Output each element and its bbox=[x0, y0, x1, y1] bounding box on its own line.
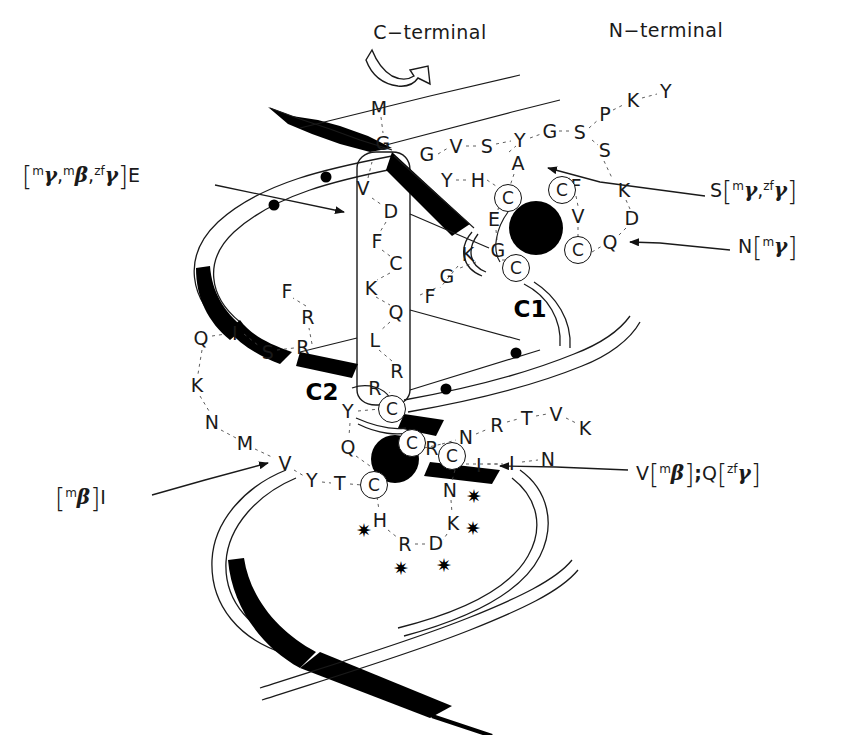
residue-K: K bbox=[365, 279, 378, 298]
residue-D: D bbox=[625, 209, 640, 228]
residue-P: P bbox=[599, 105, 611, 124]
residue-G: G bbox=[376, 134, 391, 153]
cysteine-circle: C bbox=[398, 429, 426, 457]
annotation-part: γ bbox=[744, 178, 757, 202]
annotation-part: m bbox=[65, 486, 77, 500]
annotation-part: I bbox=[100, 486, 106, 508]
residue-M: M bbox=[371, 99, 388, 118]
annotation-part: m bbox=[32, 164, 44, 178]
asterisk-marker: ✷ bbox=[356, 521, 372, 540]
annotation-part: m bbox=[63, 164, 75, 178]
annotation-ann-s: S[mγ,zfγ] bbox=[710, 178, 797, 202]
residue-I: I bbox=[509, 454, 515, 473]
annotation-part: γ bbox=[774, 234, 787, 258]
annotation-ann-i: [mβ]I bbox=[55, 485, 106, 509]
residue-T: T bbox=[334, 474, 346, 493]
strand-dot bbox=[269, 200, 280, 211]
annotation-part: β bbox=[75, 163, 88, 187]
residue-R: R bbox=[490, 416, 503, 435]
diagram-canvas: C−terminalN−terminalC1C2MGVDFCKQLRFGKGVS… bbox=[0, 0, 855, 735]
residue-I: I bbox=[232, 324, 238, 343]
residue-S: S bbox=[574, 123, 586, 142]
annotation-part: zf bbox=[94, 164, 105, 178]
annotation-part: N bbox=[738, 235, 752, 257]
annotation-part: β bbox=[671, 461, 684, 485]
residue-G: G bbox=[420, 145, 435, 164]
residue-F: F bbox=[424, 287, 435, 306]
residue-E: E bbox=[488, 210, 500, 229]
residue-S: S bbox=[481, 137, 493, 156]
cysteine-circle: C bbox=[494, 184, 522, 212]
annotation-part: E bbox=[128, 164, 140, 186]
annotation-part: zf bbox=[763, 179, 774, 193]
residue-G: G bbox=[543, 122, 558, 141]
residue-R: R bbox=[425, 439, 438, 458]
residue-R: R bbox=[390, 362, 403, 381]
asterisk-marker: ✷ bbox=[466, 487, 482, 506]
annotation-part: γ bbox=[738, 461, 751, 485]
residue-N: N bbox=[443, 481, 457, 500]
residue-N: N bbox=[541, 450, 555, 469]
residue-V: V bbox=[549, 405, 562, 424]
residue-Y: Y bbox=[514, 131, 526, 150]
residue-G: G bbox=[491, 241, 506, 260]
residue-Q: Q bbox=[602, 233, 617, 252]
strand-dot-layer bbox=[0, 0, 855, 735]
residue-A: A bbox=[511, 154, 524, 173]
residue-M: M bbox=[237, 434, 254, 453]
residue-V: V bbox=[278, 454, 291, 473]
residue-H: H bbox=[373, 511, 388, 530]
annotation-part: m bbox=[659, 462, 671, 476]
residue-H: H bbox=[471, 171, 486, 190]
residue-V: V bbox=[449, 137, 462, 156]
strand-dot bbox=[511, 348, 522, 359]
domain-label-c1: C1 bbox=[514, 296, 547, 322]
annotation-part: V bbox=[636, 462, 649, 484]
cysteine-circle: C bbox=[438, 442, 466, 470]
asterisk-marker: ✷ bbox=[393, 559, 409, 578]
residue-Y: Y bbox=[441, 171, 453, 190]
domain-label-c2: C2 bbox=[306, 379, 339, 405]
strand-dot bbox=[441, 384, 452, 395]
annotation-part: γ bbox=[44, 163, 57, 187]
annotation-ann-e: [mγ,mβ,zfγ]E bbox=[22, 163, 140, 187]
residue-T: T bbox=[521, 409, 533, 428]
residue-L: L bbox=[370, 331, 381, 350]
residue-G: G bbox=[440, 267, 455, 286]
annotation-part: γ bbox=[105, 163, 118, 187]
residue-F: F bbox=[281, 282, 292, 301]
residue-K: K bbox=[627, 91, 640, 110]
annotation-part: m bbox=[762, 235, 774, 249]
residue-R: R bbox=[296, 338, 309, 357]
residue-K: K bbox=[579, 419, 592, 438]
residue-C: C bbox=[389, 254, 402, 273]
cysteine-circle: C bbox=[360, 471, 388, 499]
residue-I: I bbox=[476, 456, 482, 475]
residue-K: K bbox=[618, 181, 631, 200]
cysteine-circle: C bbox=[502, 254, 530, 282]
residue-Y: Y bbox=[342, 402, 354, 421]
asterisk-marker: ✷ bbox=[465, 519, 481, 538]
c-terminal-label: C−terminal bbox=[373, 21, 487, 43]
cysteine-circle: C bbox=[548, 176, 576, 204]
cysteine-circle: C bbox=[564, 236, 592, 264]
residue-Y: Y bbox=[306, 471, 318, 490]
residue-R: R bbox=[398, 535, 411, 554]
cysteine-circle: C bbox=[378, 395, 406, 423]
residue-D: D bbox=[384, 202, 399, 221]
annotation-part: S bbox=[710, 179, 722, 201]
residue-D: D bbox=[429, 534, 444, 553]
annotation-part: Q bbox=[702, 462, 717, 484]
residue-K: K bbox=[447, 514, 460, 533]
residue-S: S bbox=[599, 141, 611, 160]
residue-Q: Q bbox=[193, 329, 208, 348]
residue-V: V bbox=[571, 207, 584, 226]
annotation-ann-v-q: V[mβ]; Q[zfγ] bbox=[636, 461, 761, 485]
residue-K: K bbox=[462, 245, 475, 264]
annotation-ann-n: N[mγ] bbox=[738, 234, 797, 258]
residue-V: V bbox=[356, 179, 369, 198]
residue-R: R bbox=[301, 308, 314, 327]
residue-R: R bbox=[368, 379, 381, 398]
strand-dot bbox=[321, 172, 332, 183]
residue-Q: Q bbox=[340, 438, 355, 457]
